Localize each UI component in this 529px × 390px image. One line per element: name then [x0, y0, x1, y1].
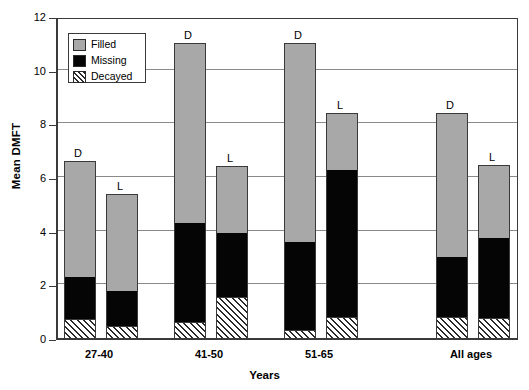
- x-axis-title: Years: [0, 369, 529, 381]
- bar-All-ages-L: [478, 165, 510, 338]
- bar-tag-51-65-D: D: [278, 29, 318, 41]
- y-tick-mark-0: [49, 340, 56, 341]
- legend-item-filled: Filled: [73, 37, 145, 52]
- y-tick-mark-10: [49, 72, 56, 73]
- segment-missing: [479, 238, 509, 318]
- y-tick-label-8: 8: [16, 119, 46, 130]
- x-tick-label-41-50: 41-50: [164, 348, 254, 360]
- legend-label-filled: Filled: [91, 39, 116, 50]
- segment-decayed: [65, 319, 95, 338]
- segment-decayed: [479, 318, 509, 338]
- y-tick-label-10: 10: [16, 66, 46, 77]
- hatched-swatch-icon: [73, 71, 86, 83]
- segment-filled: [65, 162, 95, 277]
- bar-tag-All-ages-D: D: [430, 99, 470, 111]
- segment-missing: [217, 233, 247, 297]
- segment-decayed: [175, 322, 205, 338]
- chart-container: Mean DMFT 024681012 DLDLDLDL 27-4041-505…: [0, 0, 529, 390]
- y-tick-mark-8: [49, 125, 56, 126]
- bar-51-65-D: [284, 43, 316, 338]
- bar-tag-41-50-D: D: [168, 29, 208, 41]
- segment-filled: [285, 44, 315, 242]
- segment-decayed: [107, 326, 137, 338]
- black-swatch-icon: [73, 55, 86, 67]
- segment-decayed: [217, 297, 247, 338]
- x-tick-label-51-65: 51-65: [274, 348, 364, 360]
- x-tick-label-All-ages: All ages: [426, 348, 516, 360]
- segment-filled: [479, 166, 509, 238]
- segment-filled: [175, 44, 205, 223]
- legend-label-decayed: Decayed: [91, 71, 132, 82]
- segment-missing: [285, 242, 315, 330]
- bar-41-50-L: [216, 166, 248, 338]
- bar-tag-All-ages-L: L: [472, 151, 512, 163]
- x-tick-label-27-40: 27-40: [54, 348, 144, 360]
- segment-missing: [65, 277, 95, 320]
- segment-missing: [107, 291, 137, 326]
- segment-missing: [175, 223, 205, 322]
- legend-item-decayed: Decayed: [73, 69, 145, 84]
- y-tick-label-2: 2: [16, 280, 46, 291]
- bar-tag-27-40-L: L: [100, 180, 140, 192]
- bar-tag-41-50-L: L: [210, 152, 250, 164]
- y-tick-label-6: 6: [16, 173, 46, 184]
- segment-filled: [437, 114, 467, 257]
- y-tick-mark-2: [49, 286, 56, 287]
- segment-filled: [327, 114, 357, 170]
- gray-swatch-icon: [73, 39, 86, 51]
- bar-41-50-D: [174, 43, 206, 338]
- segment-missing: [327, 170, 357, 317]
- y-tick-label-4: 4: [16, 227, 46, 238]
- legend-label-missing: Missing: [91, 55, 127, 66]
- y-tick-label-0: 0: [16, 334, 46, 345]
- bar-tag-51-65-L: L: [320, 99, 360, 111]
- segment-filled: [107, 195, 137, 291]
- segment-filled: [217, 167, 247, 232]
- segment-decayed: [437, 317, 467, 338]
- y-tick-label-12: 12: [16, 12, 46, 23]
- bar-All-ages-D: [436, 113, 468, 338]
- y-tick-mark-6: [49, 179, 56, 180]
- bar-51-65-L: [326, 113, 358, 338]
- bar-27-40-D: [64, 161, 96, 338]
- segment-missing: [437, 257, 467, 317]
- y-tick-mark-12: [49, 18, 56, 19]
- segment-decayed: [285, 330, 315, 338]
- bar-27-40-L: [106, 194, 138, 338]
- legend: Filled Missing Decayed: [68, 33, 146, 83]
- legend-item-missing: Missing: [73, 53, 145, 68]
- y-tick-mark-4: [49, 233, 56, 234]
- segment-decayed: [327, 317, 357, 338]
- bar-tag-27-40-D: D: [58, 147, 98, 159]
